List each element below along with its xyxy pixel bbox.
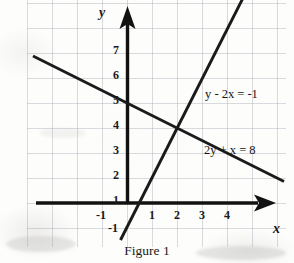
x-tick-3: 3 — [199, 209, 205, 221]
y-tick-2: 2 — [113, 169, 119, 181]
x-axis-label: x — [273, 222, 280, 236]
y-tick-4: 4 — [113, 119, 119, 131]
y-axis-label: y — [99, 6, 105, 20]
x-tick-2: 2 — [174, 209, 180, 221]
x-tick-4: 4 — [224, 209, 230, 221]
figure-container: 7 6 5 4 3 2 1 -1 -1 1 2 3 4 y x y - 2x =… — [0, 0, 294, 263]
y-tick-5: 5 — [113, 94, 119, 106]
x-tick-neg1: -1 — [96, 209, 106, 221]
equation-label-line2: 2y + x = 8 — [204, 144, 256, 157]
y-tick-neg1: -1 — [108, 222, 118, 234]
y-tick-7: 7 — [113, 44, 119, 56]
y-tick-1: 1 — [113, 194, 119, 206]
y-tick-6: 6 — [113, 69, 119, 81]
figure-caption: Figure 1 — [0, 243, 294, 259]
graph-plot — [0, 0, 294, 263]
y-tick-3: 3 — [113, 144, 119, 156]
equation-label-line1: y - 2x = -1 — [205, 88, 258, 101]
x-tick-1: 1 — [149, 209, 155, 221]
